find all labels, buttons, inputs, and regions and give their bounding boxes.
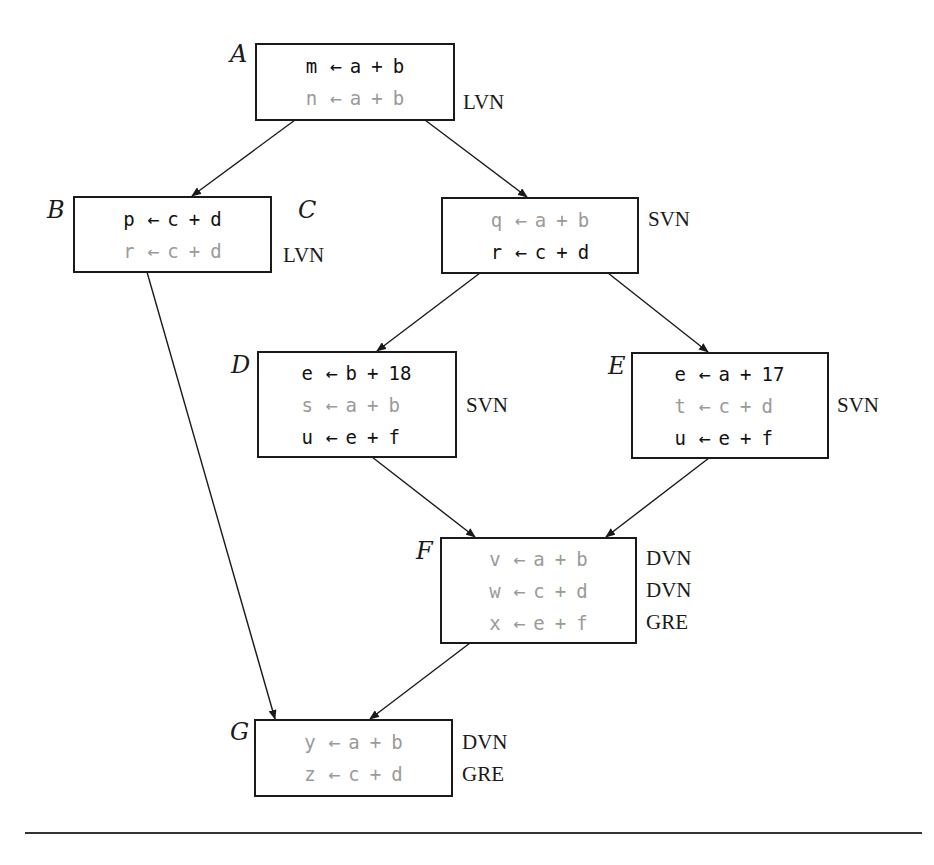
block-a-stmt-1: n ← a + b: [306, 82, 404, 114]
assign-arrow-icon: ←: [699, 422, 711, 454]
block-e-stmt-1: t ← c + d: [675, 390, 786, 422]
assign-arrow-icon: ←: [326, 389, 338, 421]
stmt-operator: +: [189, 203, 200, 235]
stmt-lhs: v: [489, 543, 503, 575]
block-e: e ← a + 17 t ← c + d u ← e + f: [631, 352, 829, 459]
stmt-operand-right: b: [388, 389, 412, 421]
block-d-tag-svn: SVN: [466, 389, 508, 421]
assign-arrow-icon: ←: [515, 204, 527, 236]
edge-b-to-g: [147, 272, 275, 719]
stmt-operand-right: b: [393, 50, 404, 82]
assign-arrow-icon: ←: [326, 357, 338, 389]
stmt-operand-right: d: [576, 575, 587, 607]
stmt-operand-right: f: [388, 421, 412, 453]
block-g: y ← a + b z ← c + d: [254, 719, 453, 797]
stmt-operand-right: b: [576, 543, 587, 575]
block-d-stmt-2: u ← e + f: [302, 421, 413, 453]
cfg-diagram: A m ← a + b n ← a + b LVN B p ← c + d r …: [0, 0, 934, 865]
block-b-stmt-1: r ← c + d: [123, 235, 221, 267]
stmt-lhs: m: [306, 50, 320, 82]
stmt-lhs: x: [489, 607, 503, 639]
assign-arrow-icon: ←: [328, 758, 340, 790]
block-f-tag-2: GRE: [646, 606, 688, 638]
block-a-label: A: [230, 40, 247, 68]
assign-arrow-icon: ←: [147, 203, 159, 235]
stmt-operand-right: b: [391, 726, 402, 758]
block-c: q ← a + b r ← c + d: [441, 197, 639, 274]
block-e-tag-svn: SVN: [837, 389, 879, 421]
stmt-operand-left: a: [533, 543, 544, 575]
assign-arrow-icon: ←: [330, 82, 342, 114]
assign-arrow-icon: ←: [513, 543, 525, 575]
stmt-operand-right: d: [210, 235, 221, 267]
stmt-operand-right: f: [761, 422, 785, 454]
stmt-operand-right: d: [210, 203, 221, 235]
stmt-lhs: s: [302, 389, 316, 421]
assign-arrow-icon: ←: [328, 726, 340, 758]
edge-c-to-d: [377, 273, 480, 351]
stmt-operator: +: [189, 235, 200, 267]
block-c-stmt-1: r ← c + d: [491, 236, 589, 268]
stmt-operand-right: 18: [388, 357, 412, 389]
block-g-stmt-0: y ← a + b: [304, 726, 402, 758]
stmt-operator: +: [371, 82, 382, 114]
stmt-operand-right: d: [578, 236, 589, 268]
stmt-operand-left: e: [346, 421, 357, 453]
stmt-operand-left: a: [350, 82, 361, 114]
stmt-lhs: r: [123, 235, 137, 267]
block-c-tag-svn: SVN: [648, 203, 690, 235]
block-e-stmt-0: e ← a + 17: [675, 358, 786, 390]
stmt-lhs: w: [489, 575, 503, 607]
stmt-operator: +: [367, 389, 378, 421]
block-g-tag-1: GRE: [462, 758, 504, 790]
stmt-lhs: q: [491, 204, 505, 236]
assign-arrow-icon: ←: [513, 575, 525, 607]
stmt-operand-left: c: [167, 203, 178, 235]
assign-arrow-icon: ←: [515, 236, 527, 268]
edge-d-to-f: [372, 457, 475, 537]
block-a-tag-lvn: LVN: [463, 86, 504, 118]
stmt-lhs: p: [123, 203, 137, 235]
stmt-operator: +: [740, 358, 751, 390]
block-f: v ← a + b w ← c + d x ← e + f: [440, 537, 637, 644]
assign-arrow-icon: ←: [147, 235, 159, 267]
stmt-lhs: t: [675, 390, 689, 422]
stmt-operand-left: a: [719, 358, 730, 390]
block-e-label: E: [608, 352, 626, 380]
block-f-tag-1: DVN: [646, 574, 692, 606]
stmt-lhs: u: [302, 421, 316, 453]
assign-arrow-icon: ←: [326, 421, 338, 453]
stmt-operand-left: b: [346, 357, 357, 389]
block-b-label: B: [47, 196, 65, 224]
stmt-operand-left: a: [346, 389, 357, 421]
stmt-operator: +: [740, 422, 751, 454]
assign-arrow-icon: ←: [699, 358, 711, 390]
stmt-operator: +: [367, 421, 378, 453]
assign-arrow-icon: ←: [513, 607, 525, 639]
stmt-operand-left: c: [533, 575, 544, 607]
stmt-operand-left: c: [348, 758, 359, 790]
stmt-operand-left: c: [719, 390, 730, 422]
stmt-lhs: y: [304, 726, 318, 758]
stmt-operand-right: b: [578, 204, 589, 236]
stmt-operand-right: d: [761, 390, 785, 422]
stmt-operator: +: [740, 390, 751, 422]
stmt-operand-left: a: [535, 204, 546, 236]
stmt-operand-left: c: [167, 235, 178, 267]
edge-e-to-f: [606, 458, 709, 537]
block-a: m ← a + b n ← a + b: [255, 43, 455, 121]
block-c-label: C: [298, 196, 316, 224]
block-d-stmt-0: e ← b + 18: [302, 357, 413, 389]
stmt-lhs: e: [302, 357, 316, 389]
stmt-operator: +: [555, 543, 566, 575]
stmt-operand-left: a: [350, 50, 361, 82]
stmt-lhs: n: [306, 82, 320, 114]
stmt-operand-left: e: [719, 422, 730, 454]
stmt-operator: +: [555, 575, 566, 607]
stmt-operand-right: d: [391, 758, 402, 790]
block-g-tag-0: DVN: [462, 726, 508, 758]
stmt-lhs: e: [675, 358, 689, 390]
assign-arrow-icon: ←: [699, 390, 711, 422]
stmt-lhs: z: [304, 758, 318, 790]
stmt-operator: +: [371, 50, 382, 82]
